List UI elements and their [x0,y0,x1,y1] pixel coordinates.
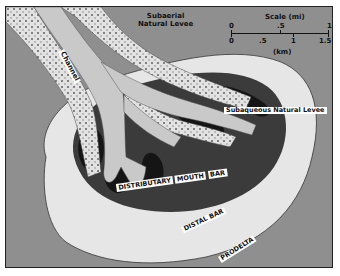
scale-title: Scale (mi) [265,13,305,21]
scale-km-label: (km) [273,48,291,56]
subaerial-levee-label: Subaerial Natural Levee [138,13,193,28]
scale-km-1: 1 [291,37,296,45]
scale-mi-05: .5 [277,22,285,30]
subaqueous-levee-label: Subaqueous Natural Levee [224,107,327,114]
scale-tick [280,30,281,34]
scale-tick [328,30,329,37]
scale-km-0: 0 [229,37,234,45]
subaerial-levee-label-line1: Subaerial [138,13,193,20]
scale-bar: Scale (mi) 0 .5 1 0 .5 1 1.5 (km) [231,13,333,63]
scale-mi-1: 1 [327,22,332,30]
scale-tick [231,30,232,37]
delta-diagram-frame: Channel Subaerial Natural Levee Subaqueo… [5,6,333,268]
scale-mi-0: 0 [229,22,234,30]
subaerial-levee-label-line2: Natural Levee [138,21,193,28]
scale-km-15: 1.5 [319,37,331,45]
scale-km-05: .5 [259,37,267,45]
